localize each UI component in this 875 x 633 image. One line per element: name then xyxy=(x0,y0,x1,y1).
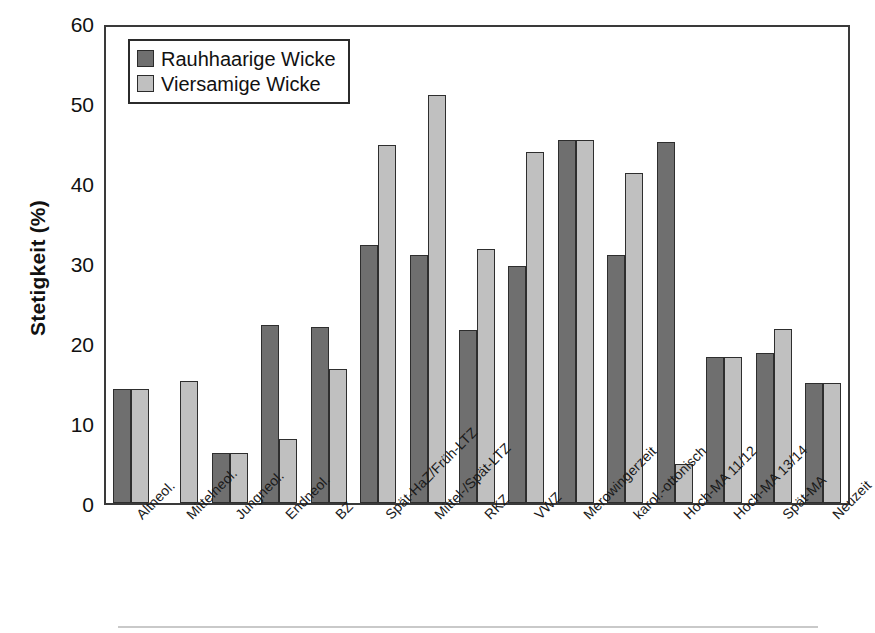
bar xyxy=(378,145,396,503)
bar xyxy=(508,266,526,503)
y-axis-tick-label: 10 xyxy=(71,413,94,437)
y-axis-tick-label: 20 xyxy=(71,333,94,357)
bar xyxy=(410,255,428,503)
bar-group xyxy=(403,27,452,503)
bar xyxy=(576,140,594,503)
bar xyxy=(657,142,675,503)
bar-group xyxy=(799,27,848,503)
legend-label: Viersamige Wicke xyxy=(161,74,321,94)
y-axis-tick-label: 0 xyxy=(82,493,94,517)
x-axis-tick-labels: Altneol.Mittelneol.Jungneol.Endneol.BZSp… xyxy=(104,507,850,633)
bar xyxy=(558,140,576,503)
legend-swatch-icon xyxy=(137,50,154,67)
legend-label: Rauhhaarige Wicke xyxy=(161,49,336,69)
y-axis-tick-label: 30 xyxy=(71,253,94,277)
y-axis-tick-label: 40 xyxy=(71,173,94,197)
bar xyxy=(428,95,446,503)
page-rule xyxy=(118,626,818,628)
legend-item: Viersamige Wicke xyxy=(137,71,336,96)
bar-group xyxy=(650,27,699,503)
bar-group xyxy=(502,27,551,503)
bar xyxy=(131,389,149,503)
bar xyxy=(113,389,131,503)
chart-legend: Rauhhaarige WickeViersamige Wicke xyxy=(128,39,350,104)
bar xyxy=(180,381,198,503)
bar xyxy=(607,255,625,503)
bar-group xyxy=(601,27,650,503)
y-axis-tick-label: 50 xyxy=(71,93,94,117)
bar-group xyxy=(551,27,600,503)
bar-group xyxy=(353,27,402,503)
bar xyxy=(360,245,378,503)
bar xyxy=(526,152,544,503)
bar-group xyxy=(749,27,798,503)
legend-item: Rauhhaarige Wicke xyxy=(137,46,336,71)
y-axis-tick-labels: 0102030405060 xyxy=(34,25,102,505)
bar xyxy=(279,439,297,503)
y-axis-tick-label: 60 xyxy=(71,13,94,37)
bar-group xyxy=(700,27,749,503)
legend-swatch-icon xyxy=(137,75,154,92)
